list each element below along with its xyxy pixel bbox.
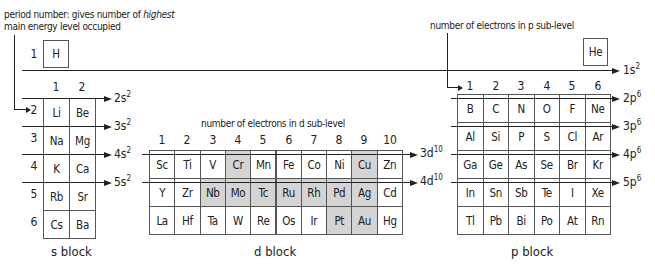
s-block-title: s block	[51, 244, 92, 259]
element-Pb: Pb	[483, 206, 510, 235]
2s-arrow-line	[22, 98, 105, 99]
4p-arrow-line	[451, 154, 614, 155]
4s-arrow-icon	[104, 152, 112, 158]
period-number-6: 6	[24, 215, 44, 229]
3s-arrow-icon	[104, 124, 112, 130]
period-annotation-emphasis: highest	[143, 9, 174, 20]
4d-arrow-icon	[410, 180, 418, 186]
4d-arrow-line	[142, 182, 412, 183]
2p-label: 2p6	[623, 91, 641, 105]
3s-arrow-line	[22, 126, 105, 127]
element-H: H	[43, 40, 69, 68]
5p-label: 5p6	[623, 175, 641, 189]
element-Be: Be	[69, 98, 96, 127]
2s-arrow-icon	[104, 96, 112, 102]
d-col-1: 1	[152, 133, 172, 147]
s-col-1: 1	[46, 80, 66, 94]
1s-label: 1s2	[623, 63, 640, 77]
d-col-10: 10	[380, 133, 400, 147]
3p-arrow-icon	[612, 124, 620, 130]
element-W: W	[225, 206, 251, 235]
period-bracket-line	[14, 35, 15, 110]
element-Ca: Ca	[69, 154, 96, 183]
d-col-6: 6	[279, 133, 299, 147]
period-number-4: 4	[24, 159, 44, 173]
3p-label: 3p6	[623, 119, 641, 133]
period-number-1: 1	[24, 47, 44, 61]
element-Na: Na	[43, 126, 70, 155]
element-Ir: Ir	[301, 206, 327, 235]
period-number-2: 2	[24, 103, 44, 117]
element-He: He	[583, 38, 608, 66]
3d-label: 3d10	[420, 146, 443, 160]
element-Ba: Ba	[69, 210, 96, 239]
p-col-1: 1	[460, 79, 480, 93]
p-col-5: 5	[562, 79, 582, 93]
d-col-7: 7	[304, 133, 324, 147]
5s-arrow-icon	[104, 180, 112, 186]
s-col-2: 2	[72, 80, 92, 94]
1s-arrow-icon	[612, 68, 620, 74]
period-annotation-line2: main energy level occupied	[4, 21, 121, 32]
element-La: La	[149, 206, 175, 235]
3p-arrow-line	[451, 126, 614, 127]
d-block-title: d block	[254, 244, 296, 259]
p-col-3: 3	[511, 79, 531, 93]
period-number-3: 3	[24, 131, 44, 145]
element-Sr: Sr	[69, 182, 96, 211]
1s-arrow-line	[22, 70, 614, 71]
element-Os: Os	[276, 206, 302, 235]
4p-label: 4p6	[623, 147, 641, 161]
element-Bi: Bi	[508, 206, 535, 235]
p-block-title: p block	[511, 244, 553, 259]
2p-arrow-icon	[612, 96, 620, 102]
4s-label: 4s2	[114, 147, 131, 161]
5s-arrow-line	[22, 182, 105, 183]
p-col-4: 4	[537, 79, 557, 93]
element-Tl: Tl	[457, 206, 484, 235]
element-Hg: Hg	[377, 206, 403, 235]
element-Hf: Hf	[174, 206, 200, 235]
p-electrons-annotation: number of electrons in p sub-level	[430, 20, 574, 31]
3s-label: 3s2	[114, 119, 131, 133]
element-Re: Re	[250, 206, 276, 235]
element-Mg: Mg	[69, 126, 96, 155]
element-Pt: Pt	[326, 206, 352, 235]
element-Rb: Rb	[43, 182, 70, 211]
5p-arrow-line	[451, 182, 614, 183]
5p-arrow-icon	[612, 180, 620, 186]
d-col-8: 8	[329, 133, 349, 147]
element-Rn: Rn	[585, 206, 612, 235]
3d-arrow-icon	[410, 152, 418, 158]
element-K: K	[43, 154, 70, 183]
element-Cs: Cs	[43, 210, 70, 239]
d-col-2: 2	[177, 133, 197, 147]
element-Au: Au	[351, 206, 377, 235]
p-bracket-line	[447, 33, 448, 88]
d-col-4: 4	[228, 133, 248, 147]
d-col-9: 9	[354, 133, 374, 147]
4s-arrow-line	[22, 154, 105, 155]
element-At: At	[559, 206, 586, 235]
d-electrons-annotation: number of electrons in d sub-level	[201, 118, 345, 129]
period-number-5: 5	[24, 187, 44, 201]
2p-arrow-line	[451, 98, 614, 99]
period-annotation-text: period number: gives number of	[4, 9, 143, 20]
p-col-2: 2	[486, 79, 506, 93]
element-Li: Li	[43, 98, 70, 127]
element-Ta: Ta	[200, 206, 226, 235]
2s-label: 2s2	[114, 91, 131, 105]
3d-arrow-line	[142, 154, 412, 155]
d-col-3: 3	[203, 133, 223, 147]
5s-label: 5s2	[114, 175, 131, 189]
period-annotation-line1: period number: gives number of highest	[4, 9, 174, 20]
d-col-5: 5	[253, 133, 273, 147]
4p-arrow-icon	[612, 152, 620, 158]
4d-label: 4d10	[420, 174, 443, 188]
element-Po: Po	[534, 206, 561, 235]
p-col-6: 6	[588, 79, 608, 93]
